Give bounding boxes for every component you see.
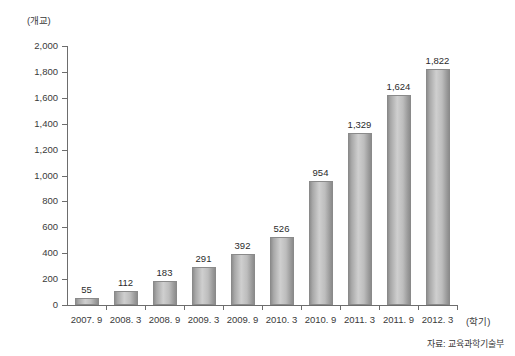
- bar-value-label: 1,329: [348, 119, 372, 130]
- source-note: 자료: 교육과학기술부: [427, 337, 504, 350]
- x-axis-tick-mark: [418, 305, 419, 310]
- y-axis-tick-mark: [62, 98, 67, 99]
- y-axis-line: [67, 46, 68, 305]
- x-axis-category-label: 2008. 3: [110, 314, 142, 325]
- y-axis-tick-label: 200: [42, 273, 58, 284]
- bar-value-label: 1,822: [426, 55, 450, 66]
- bar-group: 2912009. 3: [192, 46, 216, 305]
- bar: 954: [309, 181, 333, 305]
- x-axis-category-label: 2009. 3: [188, 314, 220, 325]
- bar-value-label: 291: [196, 253, 212, 264]
- y-axis-tick-mark: [62, 253, 67, 254]
- y-axis-tick-label: 2,000: [34, 40, 58, 51]
- bar: 55: [75, 298, 99, 305]
- y-axis-tick-label: 1,600: [34, 92, 58, 103]
- x-axis-tick-mark: [457, 305, 458, 310]
- x-axis-tick-mark: [223, 305, 224, 310]
- y-axis-tick-mark: [62, 150, 67, 151]
- bar: 112: [114, 291, 138, 306]
- x-axis-unit-label: (학기): [466, 314, 490, 328]
- y-axis-tick-mark: [62, 227, 67, 228]
- bar-value-label: 55: [81, 284, 92, 295]
- bar-group: 3922009. 9: [231, 46, 255, 305]
- bar: 1,624: [387, 95, 411, 305]
- x-axis-tick-mark: [262, 305, 263, 310]
- y-axis-tick-mark: [62, 201, 67, 202]
- bar-chart-figure: (개교) 02004006008001,0001,2001,4001,6001,…: [0, 0, 515, 356]
- y-axis-tick-label: 1,000: [34, 170, 58, 181]
- bar-value-label: 183: [157, 267, 173, 278]
- bar-value-label: 1,624: [387, 81, 411, 92]
- bar-group: 1832008. 9: [153, 46, 177, 305]
- bar-value-label: 526: [274, 223, 290, 234]
- bar: 1,822: [426, 69, 450, 305]
- x-axis-category-label: 2011. 3: [344, 314, 375, 325]
- bar-group: 5262010. 3: [270, 46, 294, 305]
- y-axis-tick-mark: [62, 279, 67, 280]
- y-axis-tick-label: 400: [42, 247, 58, 258]
- y-axis-tick-mark: [62, 124, 67, 125]
- x-axis-tick-mark: [106, 305, 107, 310]
- bar-value-label: 112: [118, 277, 133, 288]
- y-axis-tick-label: 1,800: [34, 66, 58, 77]
- bar-group: 1,3292011. 3: [348, 46, 372, 305]
- bar-group: 1,8222012. 3: [426, 46, 450, 305]
- x-axis-category-label: 2007. 9: [71, 314, 103, 325]
- y-axis-tick-mark: [62, 305, 67, 306]
- x-axis-tick-mark: [184, 305, 185, 310]
- bar: 183: [153, 281, 177, 305]
- x-axis-category-label: 2010. 9: [305, 314, 337, 325]
- y-axis-tick-mark: [62, 176, 67, 177]
- y-axis-tick-mark: [62, 46, 67, 47]
- x-axis-category-label: 2008. 9: [149, 314, 181, 325]
- y-axis-unit-label: (개교): [27, 13, 51, 27]
- bar: 526: [270, 237, 294, 305]
- bar-group: 9542010. 9: [309, 46, 333, 305]
- bar-group: 1122008. 3: [114, 46, 138, 305]
- y-axis-tick-label: 0: [53, 299, 58, 310]
- x-axis-tick-mark: [340, 305, 341, 310]
- bar-group: 552007. 9: [75, 46, 99, 305]
- y-axis-tick-mark: [62, 72, 67, 73]
- y-axis-tick-label: 600: [42, 221, 58, 232]
- bar-group: 1,6242011. 9: [387, 46, 411, 305]
- x-axis-category-label: 2009. 9: [227, 314, 259, 325]
- bar-value-label: 392: [235, 240, 251, 251]
- bar: 392: [231, 254, 255, 305]
- x-axis-tick-mark: [145, 305, 146, 310]
- y-axis-tick-label: 1,200: [34, 144, 58, 155]
- x-axis-category-label: 2011. 9: [383, 314, 414, 325]
- y-axis-tick-label: 1,400: [34, 118, 58, 129]
- bar-value-label: 954: [313, 167, 329, 178]
- x-axis-tick-mark: [379, 305, 380, 310]
- x-axis-category-label: 2010. 3: [266, 314, 298, 325]
- bar: 1,329: [348, 133, 372, 305]
- x-axis-tick-mark: [301, 305, 302, 310]
- x-axis-category-label: 2012. 3: [422, 314, 454, 325]
- bar: 291: [192, 267, 216, 305]
- plot-area: 02004006008001,0001,2001,4001,6001,8002,…: [67, 46, 457, 305]
- y-axis-tick-label: 800: [42, 195, 58, 206]
